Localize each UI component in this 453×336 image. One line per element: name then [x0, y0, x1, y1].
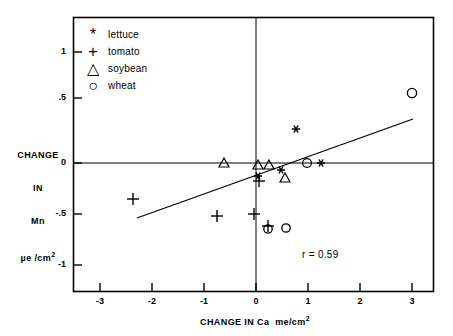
legend-label-tomato: tomato [108, 43, 140, 60]
scatter-plot-figure: 1 .5 0 -.5 -1 -3 -2 -1 0 1 2 3 CHANGE IN… [0, 0, 453, 336]
y-axis-title-line-4: µe /cm2 [6, 249, 70, 264]
y-axis-unit-text: µe /cm [21, 253, 52, 263]
x-tick-label-neg1: -1 [193, 296, 215, 306]
legend-item-tomato: + tomato [86, 43, 194, 60]
x-axis-title-text: CHANGE IN Ca me/cm [200, 317, 306, 327]
y-tick-marks [74, 52, 82, 265]
y-axis-title-line-2: IN [6, 183, 70, 194]
legend: * lettuce + tomato △ soybean ○ wheat [86, 26, 194, 94]
legend-item-soybean: △ soybean [86, 60, 194, 77]
plus-icon: + [86, 43, 100, 60]
x-tick-marks [100, 283, 412, 291]
x-axis-unit-exponent: 2 [306, 315, 310, 322]
correlation-annotation: r = 0.59 [302, 249, 339, 260]
legend-label-soybean: soybean [108, 60, 147, 77]
y-axis-title-line-1: CHANGE [6, 150, 70, 161]
data-point-lettuce [254, 126, 325, 180]
x-tick-label-neg2: -2 [141, 296, 163, 306]
x-tick-label-3: 3 [401, 296, 423, 306]
y-axis-title: CHANGE IN Mn µe /cm2 [6, 128, 70, 286]
data-point-tomato [127, 175, 274, 232]
y-axis-title-line-3: Mn [6, 216, 70, 227]
y-axis-unit-exponent: 2 [51, 251, 55, 258]
legend-item-wheat: ○ wheat [86, 77, 194, 94]
star-icon: * [86, 26, 100, 43]
x-axis-title: CHANGE IN Ca me/cm2 [150, 313, 360, 328]
circle-icon: ○ [86, 77, 100, 94]
trend-line [137, 119, 413, 218]
x-tick-label-0: 0 [245, 296, 267, 306]
x-tick-label-2: 2 [349, 296, 371, 306]
y-tick-label-1: 1 [40, 46, 66, 56]
legend-label-wheat: wheat [108, 77, 136, 94]
y-tick-label-0point5: .5 [40, 92, 66, 102]
x-tick-label-1: 1 [297, 296, 319, 306]
legend-item-lettuce: * lettuce [86, 26, 194, 43]
x-tick-label-neg3: -3 [89, 296, 111, 306]
data-point-wheat [264, 88, 417, 233]
legend-label-lettuce: lettuce [108, 26, 139, 43]
triangle-icon: △ [86, 60, 100, 77]
